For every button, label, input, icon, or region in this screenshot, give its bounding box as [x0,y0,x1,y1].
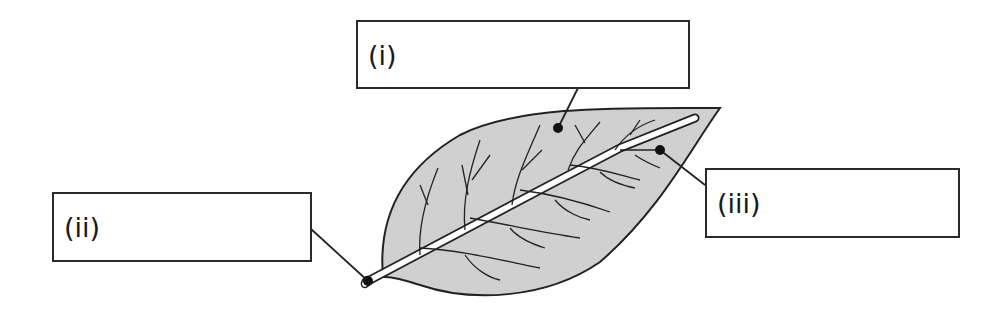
label-text-iii: (iii) [717,188,761,219]
label-box-iii[interactable]: (iii) [705,168,960,238]
label-box-i[interactable]: (i) [356,20,690,89]
leaf-blade [382,108,720,295]
label-box-ii[interactable]: (ii) [52,192,312,262]
label-text-ii: (ii) [64,212,100,243]
label-text-i: (i) [368,39,397,70]
